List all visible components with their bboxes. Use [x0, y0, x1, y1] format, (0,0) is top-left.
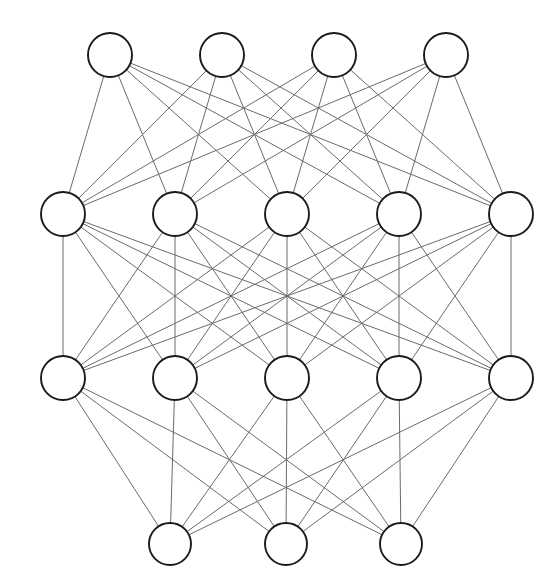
node-L3N3[interactable]	[265, 356, 309, 400]
edge-L3N3-L4N1	[182, 396, 274, 527]
edge-L3N1-L4N2	[81, 391, 270, 531]
edge-L1N4-L2N3	[303, 71, 431, 199]
edge-L3N4-L4N3	[399, 400, 400, 523]
node-L1N3[interactable]	[312, 33, 356, 77]
edge-L3N3-L4N3	[299, 396, 389, 527]
node-L4N2[interactable]	[265, 523, 307, 565]
edge-L3N4-L4N2	[298, 396, 387, 526]
edge-L1N4-L2N5	[454, 75, 502, 193]
edge-L3N5-L4N1	[189, 388, 491, 535]
edge-L3N2-L4N1	[171, 400, 175, 523]
edge-L3N3-L4N2	[286, 400, 287, 523]
edge-L3N5-L4N2	[303, 391, 493, 531]
node-L2N5[interactable]	[489, 192, 533, 236]
node-L1N2[interactable]	[200, 33, 244, 77]
edge-L1N3-L2N1	[82, 66, 315, 203]
node-L2N3[interactable]	[265, 192, 309, 236]
node-L3N2[interactable]	[153, 356, 197, 400]
edge-L3N5-L4N3	[413, 396, 499, 526]
edge-L3N1-L4N3	[83, 388, 382, 535]
edge-L1N1-L2N1	[69, 76, 104, 193]
edge-L3N1-L4N1	[75, 396, 159, 526]
node-L4N1[interactable]	[149, 523, 191, 565]
edge-L3N4-L4N1	[187, 391, 381, 532]
edge-L1N4-L2N2	[194, 66, 427, 203]
edge-L3N2-L4N2	[187, 396, 274, 526]
edges-group	[63, 63, 511, 535]
node-L3N5[interactable]	[489, 356, 533, 400]
node-L4N3[interactable]	[380, 523, 422, 565]
neural-network-diagram	[0, 0, 560, 588]
node-L3N1[interactable]	[41, 356, 85, 400]
node-L3N4[interactable]	[377, 356, 421, 400]
node-L2N2[interactable]	[153, 192, 197, 236]
edge-L1N4-L2N4	[405, 76, 440, 193]
edge-L1N2-L2N1	[79, 71, 207, 199]
node-L2N1[interactable]	[41, 192, 85, 236]
node-L2N4[interactable]	[377, 192, 421, 236]
node-L1N1[interactable]	[88, 33, 132, 77]
network-canvas	[0, 0, 560, 588]
edge-L3N2-L4N3	[193, 391, 384, 532]
node-L1N4[interactable]	[424, 33, 468, 77]
